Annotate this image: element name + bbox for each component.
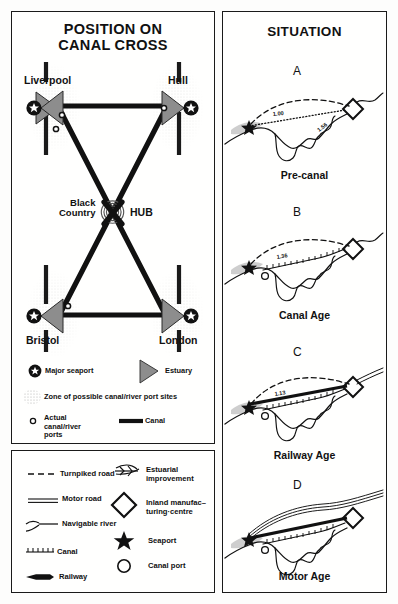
map-label-hub: HUB (130, 206, 153, 218)
figure-root: POSITION ON CANAL CROSS (0, 0, 398, 604)
key-motor-road-icon (28, 499, 58, 502)
key-railway-icon (26, 574, 54, 580)
diagram-d-canal-port-icon (262, 547, 269, 554)
diagram-b-canal-port-icon (262, 273, 269, 280)
diagram-a-inland-centre-icon (343, 99, 363, 119)
key-seaport-label: Seaport (148, 537, 176, 546)
diagram-b-inland-centre-icon (343, 239, 363, 259)
key-estuarial-improvement-icon (115, 465, 139, 476)
diagram-c-canal-port-icon (262, 413, 269, 420)
key-motor-road-label: Motor road (62, 495, 102, 504)
key-inland-manufacturing-centre-label: Inland manufac– turing·centre (146, 498, 206, 517)
diagram-c-caption: Railway Age (223, 449, 386, 461)
legend-estuary-label: Estuary (165, 366, 192, 375)
key-navigable-river-icon (26, 522, 58, 531)
key-navigable-river-label: Navigable river (62, 520, 116, 529)
diagram-a-sketch: 1.00 1.56 (223, 72, 385, 182)
key-railway-label: Railway (59, 573, 87, 582)
situation-panel: SITUATION A 1.00 (222, 11, 387, 593)
diagram-c-sketch: 1.13 (223, 352, 385, 462)
key-canal-label: Canal (57, 548, 78, 557)
map-label-hull: Hull (168, 74, 188, 86)
legend-zone-label: Zone of possible canal/river port sites (44, 392, 177, 401)
map-label-bristol: Bristol (26, 334, 59, 346)
diagram-d-caption: Motor Age (223, 570, 386, 582)
map-label-liverpool: Liverpool (24, 74, 71, 86)
position-on-canal-cross-panel: POSITION ON CANAL CROSS (11, 11, 215, 444)
legend-canal-label: Canal (145, 416, 165, 425)
situation-panel-title: SITUATION (223, 25, 386, 40)
key-turnpiked-road-label: Turnpiked road (60, 470, 115, 479)
diagram-c-ratio-0: 1.13 (274, 389, 286, 397)
diagram-b-caption: Canal Age (223, 309, 386, 321)
legend-major-seaport-label: Major seaport (45, 366, 93, 375)
key-canal-port-icon (118, 560, 130, 572)
key-panel: Turnpiked road Motor road Navigable rive… (11, 450, 215, 593)
legend-actual-ports-label: Actual canal/river ports (44, 414, 100, 440)
diagram-b-sketch: 1.36 (223, 212, 385, 322)
key-canal-icon (26, 548, 54, 552)
key-canal-port-label: Canal port (148, 562, 186, 571)
map-label-london: London (159, 334, 197, 346)
key-inland-manufacturing-centre-icon (112, 493, 136, 517)
diagram-a-ratio-0: 1.00 (272, 110, 283, 117)
key-estuarial-improvement-label: Estuarial improvement (146, 465, 194, 484)
diagram-a-caption: Pre-canal (223, 169, 386, 181)
key-seaport-icon (114, 531, 135, 550)
diagram-b-ratio-0: 1.36 (276, 252, 288, 260)
map-label-black-country: Black Country (59, 198, 95, 219)
